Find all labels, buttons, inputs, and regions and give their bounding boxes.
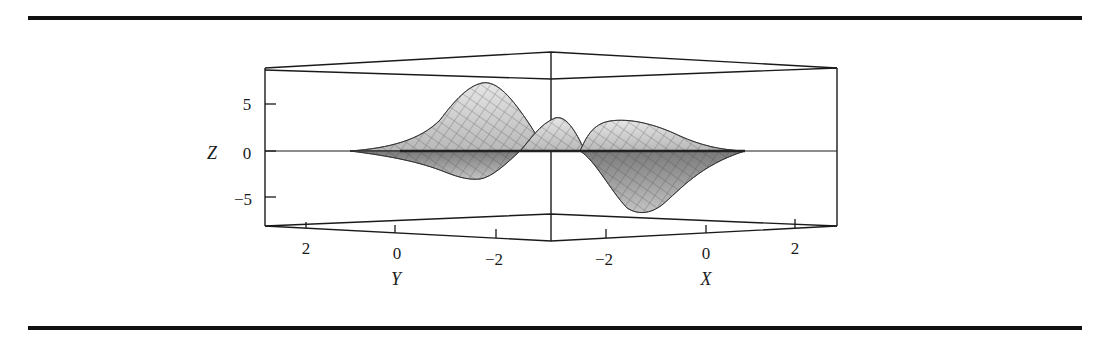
x-axis-ticks	[606, 219, 795, 238]
surface-plot	[0, 0, 1107, 346]
y-tick-label: 0	[393, 245, 402, 262]
z-axis-ticks	[265, 104, 276, 197]
z-tick-label: 0	[243, 145, 252, 162]
x-tick-label: 2	[791, 240, 800, 257]
z-axis-label: Z	[207, 144, 217, 162]
y-tick-label: 2	[302, 240, 311, 257]
y-tick-label: −2	[485, 251, 503, 268]
x-axis-label: X	[701, 270, 712, 288]
x-tick-label: 0	[702, 245, 711, 262]
x-tick-label: −2	[595, 251, 613, 268]
z-tick-label: −5	[234, 191, 252, 208]
z-tick-label: 5	[243, 96, 252, 113]
y-axis-label: Y	[391, 270, 401, 288]
surface	[350, 83, 745, 213]
